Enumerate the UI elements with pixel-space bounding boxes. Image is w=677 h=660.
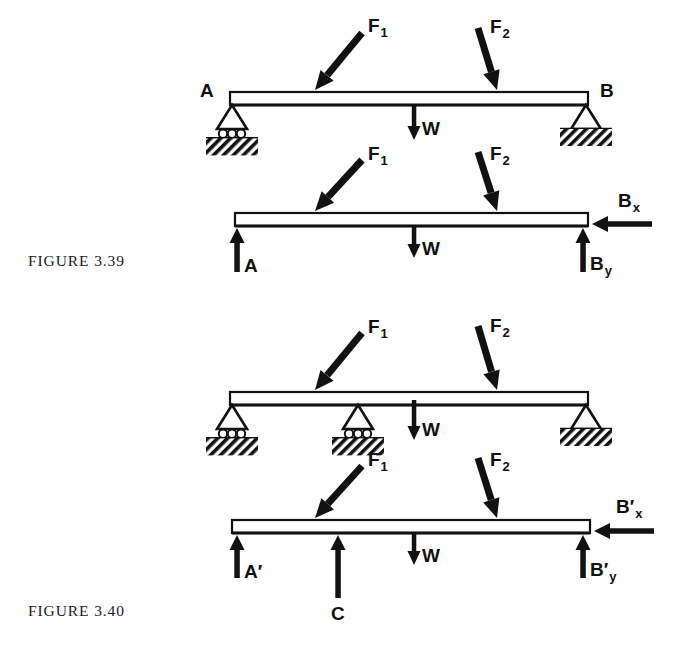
beam-supported-340-support-C-roller-0 <box>345 430 353 438</box>
beam-supported-340-support-A'-roller-1 <box>228 430 236 438</box>
statics-beam-figure: ABF1F2WF1F2WAByBxF1F2WF1F2WA′CB′yB′x <box>0 0 677 660</box>
fbd-339-load-F2-label-subscript: 2 <box>503 153 510 168</box>
beam-supported-339-support-A-roller-2 <box>237 130 245 138</box>
beam-supported-340-support-C-triangle <box>343 405 373 429</box>
figure-canvas: ABF1F2WF1F2WAByBxF1F2WF1F2WA′CB′yB′x FIG… <box>0 0 677 660</box>
beam-supported-339-support-A-roller-1 <box>228 130 236 138</box>
fbd-339-load-By-shaft <box>580 243 586 272</box>
fbd-339-load-F1-shaft <box>325 158 364 200</box>
fbd-339-load-A-shaft <box>234 243 240 272</box>
beam-supported-340-support-C-roller-1 <box>354 430 362 438</box>
beam-supported-340-load-F2-head <box>483 369 499 390</box>
fbd-339-load-F2-head <box>483 190 499 211</box>
fbd-340-load-A'-head <box>230 535 245 550</box>
beam-supported-339-support-A-ground-hatch <box>206 138 258 155</box>
beam-supported-339-load-F2-label: F2 <box>490 16 510 41</box>
fbd-340-load-F2-label-subscript: 2 <box>503 459 510 474</box>
fbd-340-load-W-label: W <box>422 545 440 566</box>
beam-supported-340-load-W-shaft <box>412 400 417 426</box>
fbd-339-load-W-head <box>408 244 421 258</box>
fbd-340-beam <box>232 520 590 533</box>
beam-supported-340-load-F1-label-subscript: 1 <box>381 326 388 341</box>
fbd-340-load-A'-label: A′ <box>244 561 263 582</box>
fbd-340-load-B'y-head <box>576 535 591 550</box>
fbd-339-load-A-head <box>230 228 245 243</box>
fbd-339-load-F1-label: F1 <box>368 143 388 168</box>
fbd-340-load-B'y-label-subscript: y <box>609 569 617 584</box>
fbd-340-load-B'x-label-subscript: x <box>635 506 643 521</box>
fbd-340-load-W-head <box>408 551 421 565</box>
beam-supported-339-support-B-triangle <box>571 105 601 129</box>
beam-supported-339-load-F1-label-subscript: 1 <box>381 25 388 40</box>
fbd-339-load-F2-label: F2 <box>490 143 510 168</box>
beam-supported-339-support-label-A: A <box>200 80 214 101</box>
fbd-340-load-B'y-shaft <box>580 550 586 578</box>
beam-supported-339-beam <box>230 92 588 105</box>
beam-supported-340-support-A'-triangle <box>217 405 247 429</box>
beam-supported-339: ABF1F2W <box>200 15 614 155</box>
fbd-339-load-F1-label-subscript: 1 <box>381 153 388 168</box>
beam-supported-340-load-F2-label-subscript: 2 <box>503 325 510 340</box>
fbd-340-load-F2-head <box>483 497 499 518</box>
figure-caption-339: FIGURE 3.39 <box>28 252 125 270</box>
beam-supported-340-support-A'-roller-2 <box>237 430 245 438</box>
beam-supported-340-support-B'-ground-hatch <box>560 429 612 446</box>
beam-supported-340-support-A'-ground-hatch <box>206 438 258 455</box>
fbd-339: F1F2WAByBx <box>230 143 653 278</box>
fbd-340-load-B'x-head <box>594 523 610 539</box>
beam-supported-340-support-C-roller-2 <box>363 430 371 438</box>
fbd-339-load-W-shaft <box>412 225 417 244</box>
beam-supported-339-support-A-triangle <box>217 105 247 129</box>
figure-caption-340: FIGURE 3.40 <box>28 602 125 620</box>
beam-supported-339-load-F1-shaft <box>324 31 364 78</box>
beam-supported-339-load-W-label: W <box>422 118 440 139</box>
fbd-339-load-Bx-label-subscript: x <box>633 200 641 215</box>
fbd-340: F1F2WA′CB′yB′x <box>230 449 655 624</box>
fbd-340-load-F1-shaft <box>325 464 365 507</box>
beam-supported-340-load-F1-label: F1 <box>368 316 388 341</box>
beam-supported-339-support-A-roller-0 <box>219 130 227 138</box>
beam-supported-340: F1F2W <box>206 315 612 455</box>
beam-supported-340-load-F1-shaft <box>324 331 364 378</box>
beam-supported-339-load-F2-head <box>483 69 499 90</box>
beam-supported-339-support-B-ground-hatch <box>560 129 612 146</box>
beam-supported-340-load-F2-label: F2 <box>490 315 510 340</box>
beam-supported-339-load-F1-label: F1 <box>368 15 388 40</box>
fbd-339-load-Bx-label: Bx <box>618 190 641 215</box>
fbd-339-load-By-head <box>576 228 591 243</box>
fbd-339-load-W-label: W <box>422 238 440 259</box>
beam-supported-339-load-W-head <box>408 126 421 140</box>
beam-supported-340-support-A'-roller-0 <box>219 430 227 438</box>
beam-supported-340-load-W-head <box>408 426 421 440</box>
fbd-339-load-Bx-head <box>592 216 608 232</box>
beam-supported-339-load-W-shaft <box>412 104 417 126</box>
fbd-340-load-B'x-label: B′x <box>616 496 643 521</box>
beam-supported-340-beam <box>230 392 588 405</box>
fbd-340-load-W-shaft <box>412 532 417 551</box>
fbd-340-load-F1-label-subscript: 1 <box>381 459 388 474</box>
fbd-340-load-C-head <box>331 535 346 550</box>
fbd-339-load-By-label-subscript: y <box>605 263 613 278</box>
beam-supported-339-load-F2-label-subscript: 2 <box>503 26 510 41</box>
fbd-340-load-F1-label: F1 <box>368 449 388 474</box>
fbd-340-load-B'x-shaft <box>610 528 654 534</box>
beam-supported-340-support-B'-triangle <box>571 405 601 429</box>
fbd-339-load-A-label: A <box>244 255 258 276</box>
fbd-339-load-Bx-shaft <box>608 221 652 227</box>
fbd-340-load-C-label: C <box>331 603 345 624</box>
fbd-339-load-By-label: By <box>590 253 613 278</box>
fbd-340-load-B'y-label: B′y <box>590 559 617 584</box>
fbd-340-load-A'-shaft <box>234 550 240 578</box>
beam-supported-339-support-label-B: B <box>600 80 614 101</box>
fbd-340-load-C-shaft <box>335 550 341 598</box>
beam-supported-340-load-W-label: W <box>422 419 440 440</box>
fbd-339-beam <box>235 213 588 226</box>
fbd-340-load-F2-label: F2 <box>490 449 510 474</box>
